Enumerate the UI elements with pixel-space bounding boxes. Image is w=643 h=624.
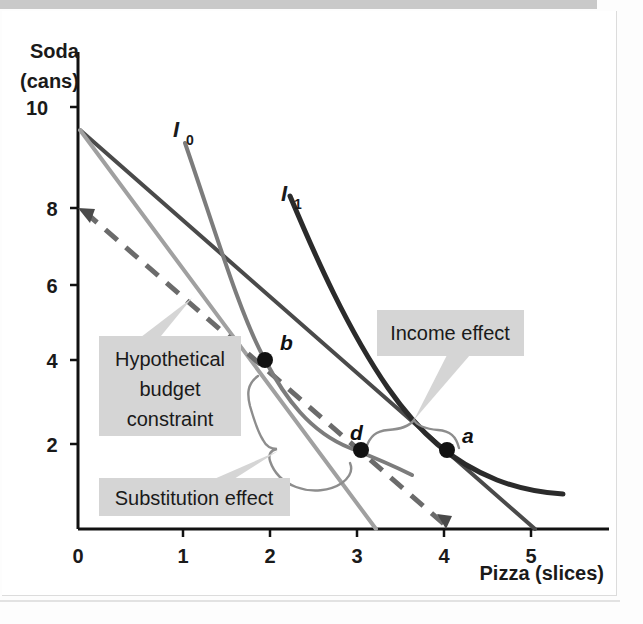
y-tick-label-10: 10 xyxy=(26,97,48,119)
x-tick-label-2: 2 xyxy=(264,545,275,567)
axes xyxy=(70,52,609,537)
x-tick-label-3: 3 xyxy=(351,545,362,567)
data-point-d[interactable]: d xyxy=(350,421,369,458)
y-axis-title-line1: Soda xyxy=(30,40,80,62)
x-tick-label-4: 4 xyxy=(438,545,450,567)
y-tick-label-6: 6 xyxy=(46,275,57,297)
curve-label-I0-subscript: 0 xyxy=(186,132,194,148)
point-marker-d xyxy=(353,442,369,458)
curve-label-I0-base: I xyxy=(173,117,180,142)
point-marker-a xyxy=(439,442,455,458)
y-tick-label-2: 2 xyxy=(46,434,57,456)
x-tick-label-1: 1 xyxy=(177,545,188,567)
figure-page: Soda (cans) 10 8 6 4 2 0 1 2 3 4 5 Pizza… xyxy=(0,0,643,624)
data-point-b[interactable]: b xyxy=(257,331,293,368)
point-label-d: d xyxy=(350,421,364,444)
callout-income-label: Income effect xyxy=(390,322,510,344)
indifference-curve-chart: Soda (cans) 10 8 6 4 2 0 1 2 3 4 5 Pizza… xyxy=(0,0,643,624)
y-tick-label-8: 8 xyxy=(46,198,57,220)
point-label-b: b xyxy=(280,331,293,354)
callout-income-tail xyxy=(414,355,470,420)
callout-hypothetical-line2: budget xyxy=(139,378,201,400)
y-axis-title-line2: (cans) xyxy=(20,70,79,92)
callout-hypothetical-line3: constraint xyxy=(127,408,214,430)
callout-hypothetical-line1: Hypothetical xyxy=(115,348,225,370)
point-marker-b xyxy=(257,352,273,368)
curve-label-I1-subscript: 1 xyxy=(294,196,302,212)
x-tick-label-0: 0 xyxy=(72,545,83,567)
new-budget-constraint-line xyxy=(80,130,376,529)
curve-label-I1-base: I xyxy=(281,181,288,206)
callout-substitution-effect[interactable]: Substitution effect xyxy=(99,451,290,516)
callout-substitution-label: Substitution effect xyxy=(115,487,274,509)
x-axis-title: Pizza (slices) xyxy=(479,562,604,584)
point-label-a: a xyxy=(462,424,474,447)
y-tick-label-4: 4 xyxy=(46,350,58,372)
